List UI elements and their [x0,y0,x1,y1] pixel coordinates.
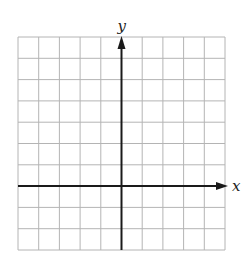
y-axis-arrow-icon [118,36,126,49]
x-axis-arrow-icon [216,182,228,190]
coordinate-plane: x y [0,0,248,261]
y-axis-label: y [117,17,127,35]
x-axis-label: x [232,177,241,195]
